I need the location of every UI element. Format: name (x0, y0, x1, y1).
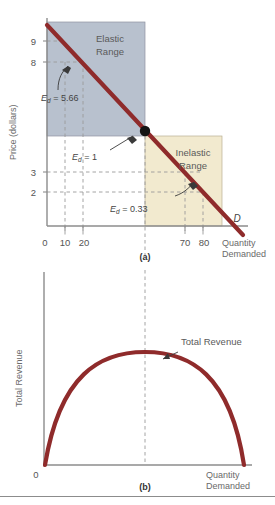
annotation-elastic-value: = 5.66 (51, 93, 79, 103)
panel-a-y-tick-2: 2 (31, 187, 36, 198)
panel-a-y-tick-3: 3 (31, 167, 36, 178)
panel-a-y-tick-8: 8 (31, 57, 36, 68)
inelastic-range-label-line1: Inelastic (176, 147, 211, 158)
panel-a-x-ticks (65, 226, 203, 231)
panel-a-y-axis-label: Price (dollars) (8, 104, 18, 160)
panel-b-chart: Total Revenue 0 Quantity Demanded Total … (0, 262, 275, 497)
panel-b-caption: (b) (139, 482, 151, 492)
annotation-elastic: Ed = 5.66 (41, 93, 78, 104)
panel-a-x-tick-0: 0 (42, 237, 47, 248)
elasticity-figure: Price (dollars) 9 8 3 2 0 10 20 70 80 Qu… (0, 0, 275, 505)
panel-b-origin-tick: 0 (33, 469, 38, 480)
elastic-range-label-line2: Range (96, 46, 124, 57)
panel-b-x-axis-label-line1: Quantity (206, 470, 240, 480)
panel-a-x-tick-20: 20 (79, 237, 90, 248)
annotation-unit-value: = 1 (82, 152, 97, 162)
panel-a-y-tick-9: 9 (31, 36, 36, 47)
panel-a-x-axis-label-line2: Demanded (222, 249, 266, 259)
total-revenue-label: Total Revenue (181, 336, 242, 347)
annotation-unit: Ed = 1 (72, 152, 97, 163)
figure-bottom-rule (0, 496, 275, 497)
panel-a-x-axis-label-line1: Quantity (222, 238, 256, 248)
elastic-range-label-line1: Elastic (96, 33, 124, 44)
panel-b-y-axis-label: Total Revenue (14, 349, 24, 407)
panel-a-x-tick-10: 10 (60, 237, 71, 248)
panel-a-chart: Price (dollars) 9 8 3 2 0 10 20 70 80 Qu… (0, 0, 275, 262)
panel-a-caption: (a) (140, 252, 151, 262)
panel-b-x-axis-label-line2: Demanded (206, 481, 250, 491)
annotation-inelastic: Ed = 0.33 (110, 204, 147, 215)
inelastic-range-label-line2: Range (179, 160, 207, 171)
annotation-inelastic-value: = 0.33 (120, 204, 148, 214)
panel-a-x-tick-70: 70 (180, 237, 191, 248)
unit-elasticity-point (140, 126, 150, 136)
demand-curve-label: D (233, 213, 240, 224)
total-revenue-curve (45, 352, 244, 465)
panel-a-x-tick-80: 80 (199, 237, 210, 248)
